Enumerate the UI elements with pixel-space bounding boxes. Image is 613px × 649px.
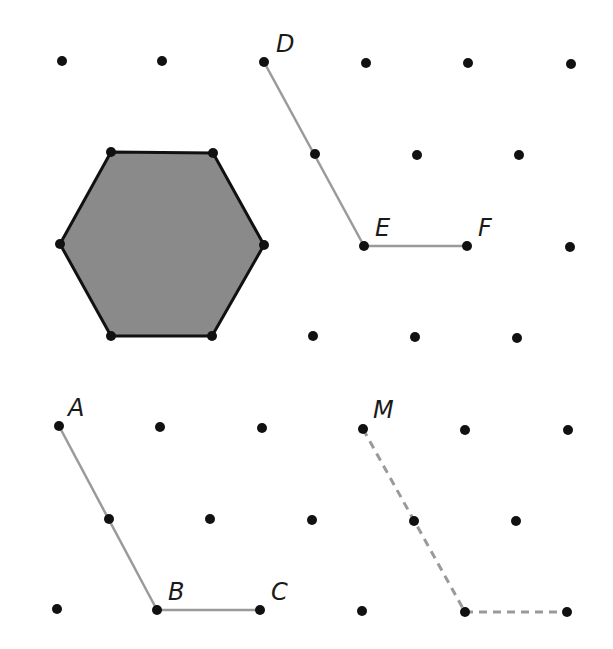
grid-dot xyxy=(563,425,573,435)
grid-dot xyxy=(155,422,165,432)
label-A: A xyxy=(66,394,84,422)
grid-dot xyxy=(106,331,116,341)
label-C: C xyxy=(271,578,288,606)
grid-dot xyxy=(462,241,472,251)
grid-dot xyxy=(308,331,318,341)
grid-dot xyxy=(208,148,218,158)
grid-dot xyxy=(565,242,575,252)
grid-dot xyxy=(57,56,67,66)
grid-dot xyxy=(52,604,62,614)
grid-dot xyxy=(409,516,419,526)
grid-dot xyxy=(566,59,576,69)
grid-dot xyxy=(106,147,116,157)
grid-dot xyxy=(310,149,320,159)
grid-dot xyxy=(152,605,162,615)
label-B: B xyxy=(168,578,184,606)
grid-dot xyxy=(259,57,269,67)
grid-dot xyxy=(410,332,420,342)
grid-dot xyxy=(207,331,217,341)
grid-dot xyxy=(259,240,269,250)
label-E: E xyxy=(375,214,391,242)
label-F: F xyxy=(478,214,493,242)
grid-dot xyxy=(357,606,367,616)
grid-dot xyxy=(463,58,473,68)
grid-dot xyxy=(55,239,65,249)
grid-dot xyxy=(157,56,167,66)
label-D: D xyxy=(276,30,294,58)
grid-dot xyxy=(307,515,317,525)
grid-dot xyxy=(562,607,572,617)
grid-dot xyxy=(514,150,524,160)
grid-dot xyxy=(512,333,522,343)
background xyxy=(0,0,613,649)
grid-dot xyxy=(104,514,114,524)
grid-dot xyxy=(361,58,371,68)
grid-dot xyxy=(460,607,470,617)
dot-grid-diagram: D E F A M B C xyxy=(0,0,613,649)
grid-dot xyxy=(54,421,64,431)
grid-dot xyxy=(511,516,521,526)
label-M: M xyxy=(373,396,394,424)
grid-dot xyxy=(412,150,422,160)
grid-dot xyxy=(205,514,215,524)
grid-dot xyxy=(358,424,368,434)
grid-dot xyxy=(359,241,369,251)
grid-dot xyxy=(255,605,265,615)
grid-dot xyxy=(460,425,470,435)
grid-dot xyxy=(257,423,267,433)
